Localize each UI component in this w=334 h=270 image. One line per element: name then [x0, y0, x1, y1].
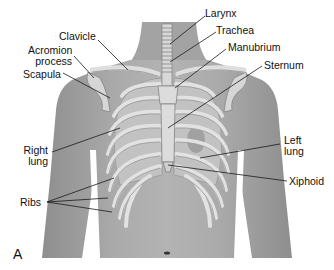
label-ribs: Ribs	[20, 197, 41, 208]
label-manubrium: Manubrium	[228, 42, 281, 53]
label-larynx: Larynx	[205, 8, 237, 19]
label-sternum: Sternum	[264, 60, 304, 71]
label-xiphoid: Xiphoid	[289, 176, 324, 187]
panel-letter: A	[13, 246, 22, 262]
label-scapula: Scapula	[23, 69, 61, 80]
label-trachea: Trachea	[216, 25, 254, 36]
label-left-lung: Left lung	[284, 135, 304, 157]
label-right-lung: Right lung	[22, 145, 48, 167]
label-clavicle: Clavicle	[59, 31, 96, 42]
label-acromion-process: Acromion process	[28, 45, 72, 67]
manubrium-shape	[158, 86, 178, 104]
sternum-shape	[161, 104, 175, 162]
thorax-anatomy-figure: Larynx Trachea Clavicle Acromion process…	[0, 0, 334, 270]
trachea-shape	[162, 24, 172, 86]
